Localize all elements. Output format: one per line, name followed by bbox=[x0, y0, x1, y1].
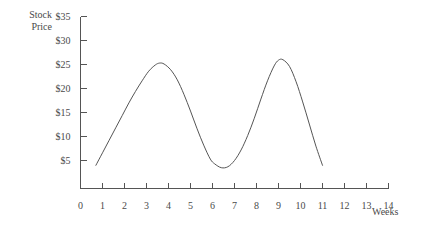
stock-price-chart: StockPrice Weeks $5$10$15$20$25$30$35 01… bbox=[0, 0, 437, 239]
y-tick-label: $20 bbox=[43, 84, 71, 94]
x-tick-label: 0 bbox=[71, 201, 91, 211]
tick-marks bbox=[81, 17, 389, 189]
x-tick-label: 9 bbox=[269, 201, 289, 211]
x-tick-label: 5 bbox=[181, 201, 201, 211]
x-tick-label: 10 bbox=[291, 201, 311, 211]
x-tick-label: 3 bbox=[137, 201, 157, 211]
x-tick-label: 4 bbox=[159, 201, 179, 211]
y-tick-label: $35 bbox=[43, 12, 71, 22]
y-tick-label: $5 bbox=[43, 156, 71, 166]
x-tick-label: 8 bbox=[247, 201, 267, 211]
x-tick-label: 13 bbox=[357, 201, 377, 211]
data-curve bbox=[96, 59, 323, 168]
stock-price-line bbox=[96, 59, 323, 168]
x-tick-label: 12 bbox=[335, 201, 355, 211]
x-tick-label: 11 bbox=[313, 201, 333, 211]
x-tick-label: 6 bbox=[203, 201, 223, 211]
axis-lines bbox=[81, 17, 389, 189]
y-tick-label: $15 bbox=[43, 108, 71, 118]
y-tick-label: $30 bbox=[43, 36, 71, 46]
y-tick-label: $25 bbox=[43, 60, 71, 70]
y-tick-label: $10 bbox=[43, 132, 71, 142]
x-tick-label: 2 bbox=[115, 201, 135, 211]
x-tick-label: 7 bbox=[225, 201, 245, 211]
x-tick-label: 14 bbox=[379, 201, 399, 211]
x-tick-label: 1 bbox=[93, 201, 113, 211]
